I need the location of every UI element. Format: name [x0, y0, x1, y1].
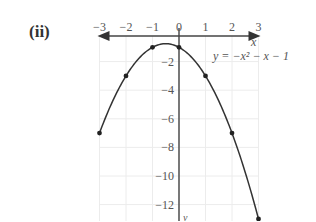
- equation-label: y = −x² − x − 1: [212, 49, 289, 63]
- data-point: [203, 74, 208, 79]
- y-axis-label: y: [182, 212, 188, 221]
- x-tick-label: 2: [229, 20, 235, 34]
- parabola-chart: −3−2−10123−2−4−6−8−10−12 y = −x² − x − 1…: [0, 0, 316, 221]
- y-tick-label: −6: [161, 112, 174, 126]
- data-point: [177, 45, 182, 50]
- x-tick-label: 0: [176, 20, 182, 34]
- data-point: [97, 131, 102, 136]
- data-point: [230, 131, 235, 136]
- data-point: [256, 217, 261, 222]
- data-point: [150, 45, 155, 50]
- y-tick-label: −12: [155, 198, 174, 212]
- x-tick-label: −1: [146, 20, 159, 34]
- x-tick-label: 1: [203, 20, 209, 34]
- x-axis-label: x: [250, 35, 257, 49]
- x-tick-label: −2: [120, 20, 133, 34]
- x-tick-label: 3: [256, 20, 262, 34]
- y-tick-label: −4: [161, 83, 174, 97]
- y-tick-label: −10: [155, 169, 174, 183]
- y-tick-label: −8: [161, 140, 174, 154]
- y-tick-label: −2: [161, 55, 174, 69]
- x-tick-label: −3: [93, 20, 106, 34]
- data-point: [124, 74, 129, 79]
